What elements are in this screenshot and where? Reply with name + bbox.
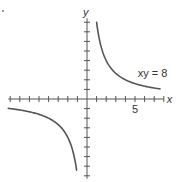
hyperbola-branch-quadrant-3 <box>8 108 76 170</box>
figure-marker-dot <box>2 10 4 12</box>
y-axis-label: y <box>82 6 90 18</box>
x-axis-label: x <box>166 93 173 105</box>
curve-equation-label: xy = 8 <box>138 67 168 79</box>
hyperbola-chart: x y 5 xy = 8 <box>0 0 176 182</box>
x-tick-label-5: 5 <box>132 103 138 115</box>
